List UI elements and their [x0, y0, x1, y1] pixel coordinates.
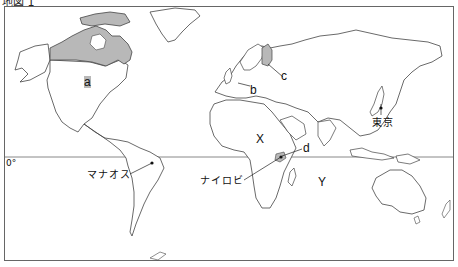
- label-a: a: [84, 76, 91, 88]
- label-d: d: [303, 142, 310, 154]
- nairobi-dot: [279, 155, 282, 158]
- label-y: Y: [318, 176, 326, 188]
- south-america-outline: [84, 124, 164, 236]
- city-tokyo: 東京: [372, 118, 394, 128]
- canada-shaded: [50, 26, 132, 66]
- australia-outline: [372, 170, 426, 214]
- city-manaus: マナオス: [87, 170, 131, 180]
- label-c: c: [281, 70, 287, 82]
- arctic-islands: [80, 12, 130, 26]
- finland-shaded: [262, 44, 272, 66]
- label-x: X: [256, 133, 264, 145]
- greenland-outline: [150, 8, 200, 42]
- tokyo-dot: [379, 106, 382, 109]
- manaus-dot: [150, 161, 153, 164]
- world-map: [0, 0, 458, 267]
- equator-label: 0°: [6, 159, 16, 168]
- city-nairobi: ナイロビ: [200, 176, 244, 186]
- label-b: b: [250, 84, 257, 96]
